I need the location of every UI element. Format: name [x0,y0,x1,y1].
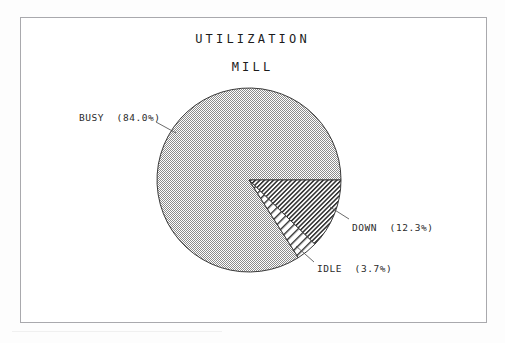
pie-label-busy: BUSY (84.0%) [79,112,161,123]
pie-chart-canvas [0,0,505,343]
pie-label-down: DOWN (12.3%) [352,222,434,233]
pie-label-idle: IDLE (3.7%) [317,263,392,274]
page-root: UTILIZATION MILL [0,0,505,343]
